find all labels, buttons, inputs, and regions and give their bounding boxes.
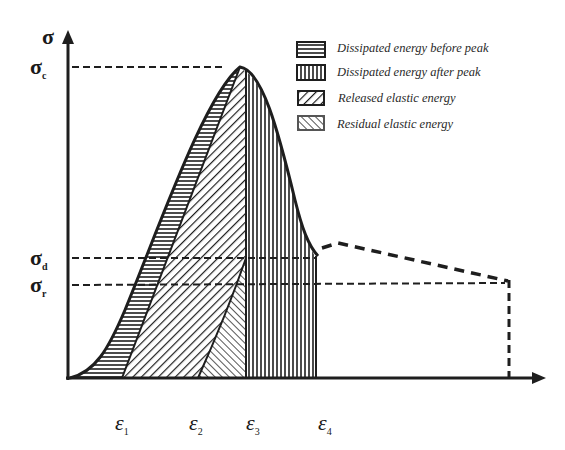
y-axis-label: σ <box>42 24 54 50</box>
epsilon-2-label: ε2 <box>189 410 203 437</box>
sigma-r-label: σr <box>30 272 46 299</box>
sigma-c-label: σc <box>30 54 46 81</box>
epsilon-4-label: ε4 <box>318 410 332 437</box>
post-peak-dashed-curve <box>322 243 508 281</box>
legend-label-released-elastic: Released elastic energy <box>338 91 456 106</box>
legend-swatch-backward-diagonal-icon <box>298 116 324 130</box>
x-axis-arrow-icon <box>532 372 546 384</box>
legend-swatch-forward-diagonal-icon <box>298 91 324 105</box>
legend-label-dissipated-before: Dissipated energy before peak <box>337 41 488 56</box>
epsilon-1-label: ε1 <box>115 410 129 437</box>
legend-label-dissipated-after: Dissipated energy after peak <box>337 65 481 80</box>
y-axis-arrow-icon <box>62 30 74 44</box>
legend-swatch-vertical-icon <box>297 65 325 80</box>
epsilon-3-label: ε3 <box>246 410 260 437</box>
legend-swatch-horizontal-icon <box>297 42 325 57</box>
legend-label-residual-elastic: Residual elastic energy <box>337 117 453 132</box>
sigma-d-label: σd <box>30 245 48 272</box>
